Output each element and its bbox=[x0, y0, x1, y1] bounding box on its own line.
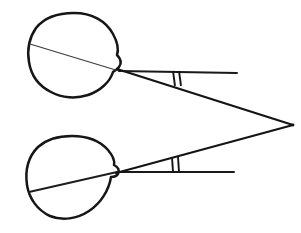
diagram-canvas bbox=[0, 0, 301, 233]
upper-angle-tick-1 bbox=[173, 71, 175, 86]
upper-eye-group bbox=[28, 13, 120, 97]
ray-group bbox=[116, 69, 293, 173]
upper-eye-internal-visual-axis bbox=[30, 44, 119, 71]
upper-eye-globe-outline bbox=[28, 13, 120, 97]
lower-visual-axis-ray bbox=[116, 125, 293, 173]
lower-eye-globe-outline bbox=[26, 136, 118, 219]
binocular-convergence-diagram bbox=[0, 0, 301, 233]
lower-angle-tick-2 bbox=[178, 157, 179, 172]
lower-eye-group bbox=[26, 136, 118, 219]
fixation-point-node bbox=[292, 124, 295, 127]
upper-angle-tick-2 bbox=[179, 71, 181, 86]
upper-visual-axis-ray bbox=[117, 69, 293, 125]
upper-optical-axis-ray bbox=[119, 71, 237, 73]
lower-angle-tick-1 bbox=[172, 157, 173, 172]
lower-eye-internal-visual-axis bbox=[29, 172, 117, 192]
